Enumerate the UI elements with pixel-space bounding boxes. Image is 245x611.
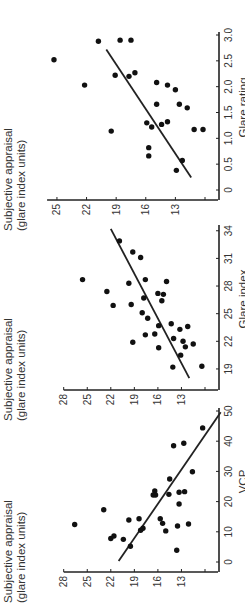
data-point (171, 336, 176, 341)
regression-line (119, 412, 221, 561)
data-point (167, 476, 172, 481)
x-tick-label: 34 (223, 225, 234, 237)
y-tick-label: 13 (176, 576, 187, 588)
data-point (156, 345, 161, 350)
data-point (140, 525, 145, 530)
data-point (191, 341, 196, 346)
x-tick-label: 40 (223, 435, 234, 447)
data-point (159, 122, 164, 127)
x-tick-label: 28 (223, 280, 234, 292)
data-point (174, 168, 179, 173)
data-point (161, 292, 166, 297)
data-point (143, 277, 148, 282)
data-point (138, 255, 143, 260)
data-point (126, 517, 131, 522)
data-point (145, 316, 150, 321)
scatter-panel-2: 131619222528192225283134Glare indexSubje… (2, 225, 245, 421)
data-point (152, 331, 157, 336)
data-point (180, 339, 185, 344)
data-point (166, 492, 171, 497)
data-point (101, 507, 106, 512)
y-tick-label: 25 (51, 204, 62, 216)
y-tick-label: 16 (152, 576, 163, 588)
data-point (156, 323, 161, 328)
data-point (173, 87, 178, 92)
data-point (126, 74, 131, 79)
x-tick-label: 30 (223, 465, 234, 477)
regression-line (111, 229, 190, 378)
data-point (159, 298, 164, 303)
data-point (181, 441, 186, 446)
data-point (170, 364, 175, 369)
data-point (141, 295, 146, 300)
x-axis-title: Glare index (237, 269, 245, 328)
y-axis-title: Subjective appraisal (2, 128, 14, 231)
data-point (185, 324, 190, 329)
x-axis-title: Glare rating (237, 77, 245, 137)
data-point (128, 37, 133, 42)
data-point (154, 80, 159, 85)
data-point (117, 37, 122, 42)
data-point (160, 521, 165, 526)
x-tick-label: 50 (223, 405, 234, 417)
data-point (163, 528, 168, 533)
x-tick-label: 0 (223, 187, 234, 193)
data-point (165, 119, 170, 124)
data-point (186, 521, 191, 526)
data-point (130, 340, 135, 345)
y-tick-label: 25 (82, 576, 93, 588)
data-point (199, 363, 204, 368)
data-point (129, 302, 134, 307)
data-point (177, 327, 182, 332)
data-point (200, 425, 205, 430)
x-axis-title: VCP (237, 469, 245, 493)
data-point (178, 352, 183, 357)
data-point (140, 310, 145, 315)
data-point (109, 128, 114, 133)
y-tick-label: 19 (111, 204, 122, 216)
data-point (110, 303, 115, 308)
x-tick-label: 10 (223, 526, 234, 538)
y-tick-label: 13 (176, 394, 187, 406)
data-point (128, 544, 133, 549)
data-point (112, 73, 117, 78)
x-tick-label: 19 (223, 363, 234, 375)
data-point (175, 523, 180, 528)
y-axis-title: Subjective appraisal (2, 500, 14, 603)
y-tick-label: 19 (129, 576, 140, 588)
y-tick-label: 13 (170, 204, 181, 216)
x-tick-label: 1.5 (223, 105, 234, 119)
y-tick-label: 16 (152, 394, 163, 406)
x-tick-label: 31 (223, 252, 234, 264)
x-tick-label: 2.0 (223, 79, 234, 93)
y-tick-label: 22 (105, 576, 116, 588)
y-axis-title: (glare index units) (15, 329, 27, 421)
scatter-panel-1: 13161922252801020304050VCPSubjective app… (2, 405, 245, 603)
data-point (174, 548, 179, 553)
data-point (183, 344, 188, 349)
data-point (104, 289, 109, 294)
x-tick-label: 20 (223, 496, 234, 508)
data-point (176, 490, 181, 495)
data-point (146, 145, 151, 150)
scatter-panel-3: 131619222500.51.01.52.02.53.0Glare ratin… (2, 28, 245, 231)
x-tick-label: 2.5 (223, 53, 234, 67)
data-point (132, 70, 137, 75)
data-point (111, 533, 116, 538)
data-point (149, 124, 154, 129)
y-tick-label: 28 (58, 576, 69, 588)
y-axis-title: (glare index units) (15, 511, 27, 603)
data-point (126, 281, 131, 286)
y-tick-label: 22 (81, 204, 92, 216)
scatter-plot-figure: 13161922252801020304050VCPSubjective app… (0, 0, 245, 611)
data-point (176, 501, 181, 506)
y-axis-title: (glare index units) (15, 139, 27, 231)
data-point (180, 158, 185, 163)
data-point (121, 537, 126, 542)
data-point (80, 277, 85, 282)
data-point (185, 105, 190, 110)
data-point (72, 522, 77, 527)
data-point (143, 332, 148, 337)
x-tick-label: 1.0 (223, 131, 234, 145)
data-point (171, 443, 176, 448)
